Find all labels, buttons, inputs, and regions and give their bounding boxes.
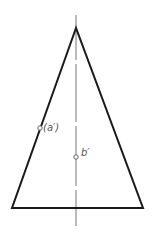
point-b-prime bbox=[74, 155, 78, 159]
label-a-prime: (a′) bbox=[43, 122, 59, 133]
point-a-prime bbox=[38, 126, 42, 130]
cone-outline bbox=[12, 28, 143, 208]
label-b-prime: b′ bbox=[81, 147, 90, 158]
cone-projection-diagram: (a′) b′ bbox=[0, 0, 154, 239]
